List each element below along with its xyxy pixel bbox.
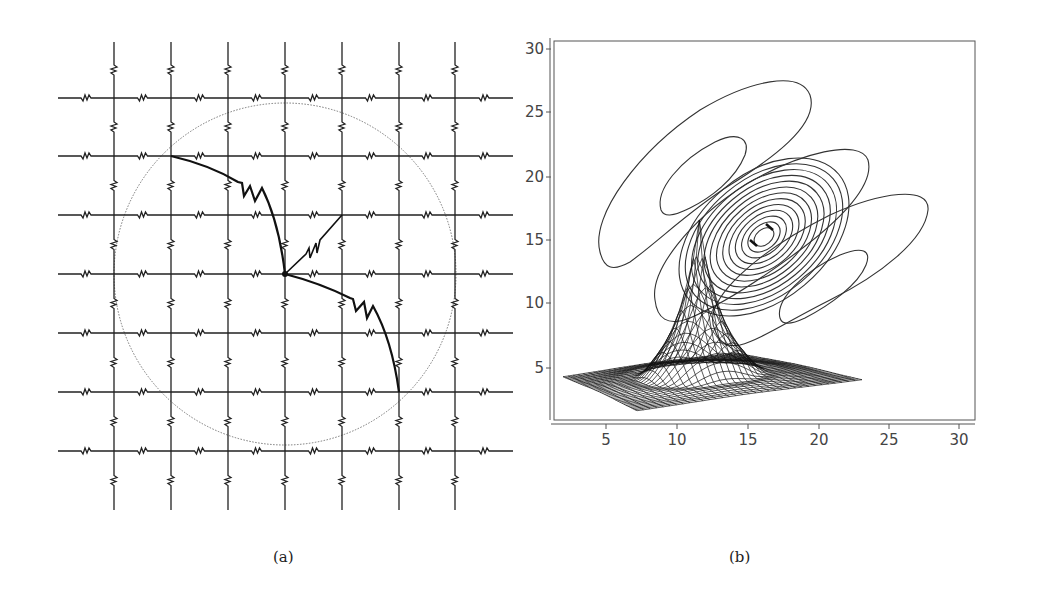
lattice-column bbox=[452, 42, 458, 510]
caption-b: (b) bbox=[729, 548, 750, 566]
figure: 30252015105 51015202530 bbox=[0, 0, 1042, 611]
y-axis-ticks: 30252015105 bbox=[525, 40, 551, 377]
lattice-column bbox=[225, 42, 231, 510]
panel-a-resistor-lattice bbox=[58, 42, 513, 510]
y-tick-label: 20 bbox=[525, 168, 544, 186]
y-tick-label: 25 bbox=[525, 103, 544, 121]
y-tick-label: 15 bbox=[525, 231, 544, 249]
lattice-column bbox=[168, 42, 174, 510]
x-tick-label: 25 bbox=[879, 431, 898, 449]
x-tick-label: 10 bbox=[667, 431, 686, 449]
x-axis-ticks: 51015202530 bbox=[601, 424, 968, 449]
x-tick-label: 20 bbox=[809, 431, 828, 449]
lattice-column bbox=[396, 42, 402, 510]
caption-a: (a) bbox=[273, 548, 294, 566]
panel-b-contour-plot: 30252015105 51015202530 bbox=[525, 38, 975, 449]
lattice-column bbox=[111, 42, 117, 510]
y-tick-label: 30 bbox=[525, 40, 544, 58]
x-tick-label: 30 bbox=[949, 431, 968, 449]
y-tick-label: 5 bbox=[534, 359, 544, 377]
y-tick-label: 10 bbox=[525, 294, 544, 312]
x-tick-label: 5 bbox=[601, 431, 611, 449]
diagonal-resistor bbox=[285, 215, 342, 274]
center-node bbox=[282, 271, 288, 277]
x-tick-label: 15 bbox=[738, 431, 757, 449]
